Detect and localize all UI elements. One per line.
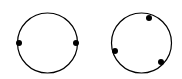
point-dot [146, 15, 152, 21]
circle-outline [18, 13, 78, 73]
point-dot [112, 48, 118, 54]
point-dot [73, 40, 79, 46]
diagram-canvas [0, 0, 182, 79]
point-dot [16, 40, 22, 46]
left-circle [16, 13, 79, 73]
point-dot [158, 59, 164, 65]
right-circle [112, 13, 172, 73]
